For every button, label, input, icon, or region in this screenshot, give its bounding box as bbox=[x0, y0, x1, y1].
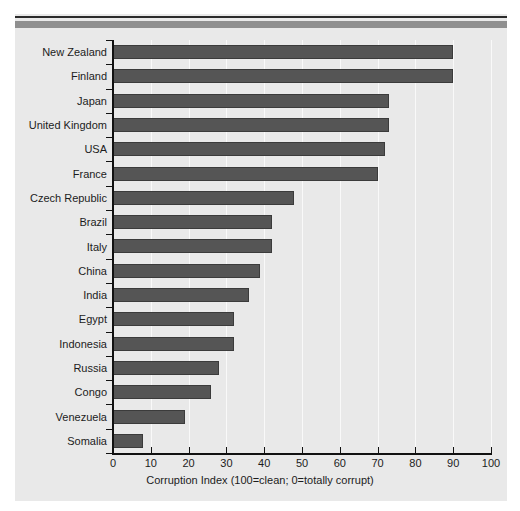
x-axis-tick bbox=[378, 447, 379, 453]
x-axis-tick-label: 30 bbox=[206, 457, 246, 469]
y-axis-label: United Kingdom bbox=[7, 119, 107, 131]
bar bbox=[113, 69, 453, 83]
bar-row bbox=[113, 89, 491, 113]
y-axis-label: Brazil bbox=[7, 216, 107, 228]
y-axis-label: Venezuela bbox=[7, 411, 107, 423]
bar-row bbox=[113, 380, 491, 404]
y-axis-label: Russia bbox=[7, 362, 107, 374]
bar-row bbox=[113, 113, 491, 137]
plot-area bbox=[113, 40, 491, 453]
x-axis-title: Corruption Index (100=clean; 0=totally c… bbox=[0, 474, 520, 486]
bar bbox=[113, 361, 219, 375]
x-axis-tick bbox=[491, 447, 492, 453]
x-axis-tick-label: 20 bbox=[169, 457, 209, 469]
bar-row bbox=[113, 161, 491, 185]
bar bbox=[113, 434, 143, 448]
y-axis-label: Indonesia bbox=[7, 338, 107, 350]
y-axis-tick bbox=[106, 161, 112, 162]
bar bbox=[113, 142, 385, 156]
x-axis-tick-label: 60 bbox=[320, 457, 360, 469]
x-axis-tick bbox=[113, 447, 114, 453]
bar bbox=[113, 45, 453, 59]
y-axis-tick bbox=[106, 356, 112, 357]
y-axis-tick bbox=[106, 234, 112, 235]
bar bbox=[113, 167, 378, 181]
y-axis-label: USA bbox=[7, 143, 107, 155]
y-axis-tick bbox=[106, 259, 112, 260]
bar-row bbox=[113, 64, 491, 88]
x-axis-tick bbox=[302, 447, 303, 453]
y-axis-tick bbox=[106, 307, 112, 308]
x-axis-tick bbox=[340, 447, 341, 453]
x-axis-tick bbox=[189, 447, 190, 453]
y-axis-label: India bbox=[7, 289, 107, 301]
bar-row bbox=[113, 40, 491, 64]
bar bbox=[113, 385, 211, 399]
y-axis-label: Italy bbox=[7, 241, 107, 253]
y-axis-tick bbox=[106, 113, 112, 114]
bar-row bbox=[113, 259, 491, 283]
y-axis-label: Japan bbox=[7, 95, 107, 107]
x-axis-tick-label: 70 bbox=[358, 457, 398, 469]
chart-page: New ZealandFinlandJapanUnited KingdomUSA… bbox=[0, 0, 520, 511]
bar bbox=[113, 312, 234, 326]
x-axis-tick-label: 100 bbox=[471, 457, 511, 469]
x-axis-tick bbox=[151, 447, 152, 453]
x-axis-tick-label: 90 bbox=[433, 457, 473, 469]
x-axis-tick bbox=[453, 447, 454, 453]
y-axis-tick bbox=[106, 283, 112, 284]
bar bbox=[113, 410, 185, 424]
y-axis-tick bbox=[106, 40, 112, 41]
bar bbox=[113, 337, 234, 351]
bar-row bbox=[113, 404, 491, 428]
bar-row bbox=[113, 137, 491, 161]
x-axis-tick bbox=[226, 447, 227, 453]
bar-row bbox=[113, 234, 491, 258]
y-axis-line bbox=[112, 40, 114, 454]
gridline bbox=[491, 40, 492, 453]
bar-row bbox=[113, 307, 491, 331]
x-axis-tick-label: 80 bbox=[395, 457, 435, 469]
y-axis-label: New Zealand bbox=[7, 46, 107, 58]
bar-row bbox=[113, 332, 491, 356]
x-axis-tick-label: 10 bbox=[131, 457, 171, 469]
bar-row bbox=[113, 186, 491, 210]
x-axis-tick bbox=[264, 447, 265, 453]
y-axis-tick bbox=[106, 64, 112, 65]
y-axis-tick bbox=[106, 89, 112, 90]
bar bbox=[113, 239, 272, 253]
x-axis-line bbox=[112, 453, 492, 455]
bar bbox=[113, 118, 389, 132]
header-rule-thick bbox=[15, 21, 507, 28]
y-axis-label: Somalia bbox=[7, 435, 107, 447]
x-axis-tick-label: 50 bbox=[282, 457, 322, 469]
y-axis-tick bbox=[106, 210, 112, 211]
y-axis-tick bbox=[106, 453, 112, 454]
x-axis-tick-label: 40 bbox=[244, 457, 284, 469]
y-axis-label: Congo bbox=[7, 386, 107, 398]
bar-row bbox=[113, 356, 491, 380]
y-axis-tick bbox=[106, 380, 112, 381]
y-axis-tick bbox=[106, 186, 112, 187]
y-axis-tick bbox=[106, 332, 112, 333]
y-axis-tick bbox=[106, 404, 112, 405]
bar bbox=[113, 215, 272, 229]
bar-row bbox=[113, 283, 491, 307]
y-axis-label: Finland bbox=[7, 70, 107, 82]
bar bbox=[113, 264, 260, 278]
y-axis-label: France bbox=[7, 168, 107, 180]
y-axis-label: China bbox=[7, 265, 107, 277]
y-axis-tick bbox=[106, 429, 112, 430]
y-axis-tick bbox=[106, 137, 112, 138]
header-rule-thin bbox=[15, 16, 507, 18]
y-axis-label: Czech Republic bbox=[7, 192, 107, 204]
y-axis-labels: New ZealandFinlandJapanUnited KingdomUSA… bbox=[5, 40, 107, 453]
bar bbox=[113, 288, 249, 302]
bar bbox=[113, 94, 389, 108]
bar bbox=[113, 191, 294, 205]
bar-row bbox=[113, 210, 491, 234]
x-axis-tick bbox=[415, 447, 416, 453]
y-axis-label: Egypt bbox=[7, 313, 107, 325]
x-axis-tick-label: 0 bbox=[93, 457, 133, 469]
